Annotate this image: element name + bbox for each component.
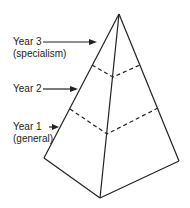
- pyramid-diagram: Year 3 (specialism) Year 2 Year 1 (gener…: [0, 0, 190, 208]
- label-year3: Year 3: [13, 36, 42, 47]
- pyramid-center-edge: [100, 14, 119, 198]
- sublabel-year3: (specialism): [13, 48, 66, 59]
- arrow-year2: [43, 86, 78, 92]
- arrow-year1: [49, 124, 59, 130]
- label-year1: Year 1: [13, 121, 42, 132]
- pyramid-left-edge: [44, 14, 119, 158]
- level-divider-upper: [92, 65, 140, 77]
- pyramid-graphic: [0, 0, 190, 208]
- sublabel-year1: (general): [13, 133, 53, 144]
- arrow-year3: [43, 39, 97, 45]
- pyramid-right-edge: [119, 14, 179, 161]
- pyramid-base-left: [44, 158, 100, 198]
- pyramid-base-right: [100, 161, 179, 198]
- label-year2: Year 2: [13, 83, 42, 94]
- level-divider-lower: [70, 108, 158, 134]
